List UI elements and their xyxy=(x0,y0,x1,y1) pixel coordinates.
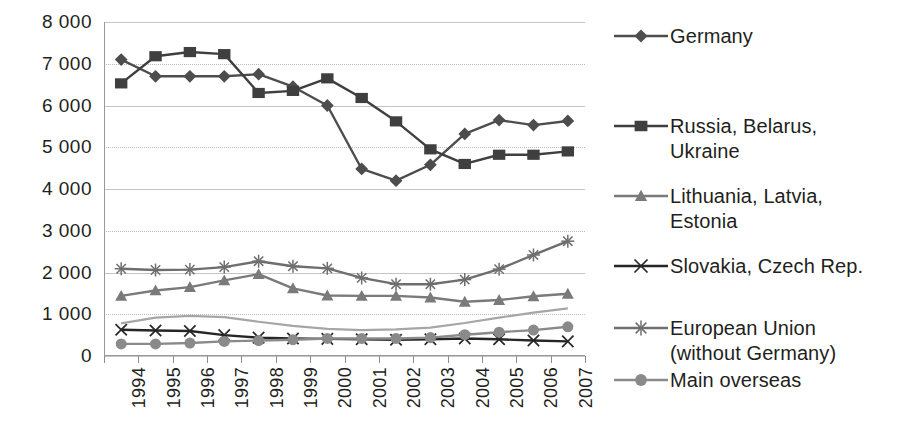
data-point-asterisk xyxy=(115,262,128,275)
data-point-asterisk xyxy=(527,248,540,261)
data-point-square xyxy=(390,116,402,126)
data-point-asterisk xyxy=(183,263,196,276)
data-point-square xyxy=(321,73,333,83)
series-russia-belarus-ukraine xyxy=(115,47,574,169)
y-tick-label: 6 000 xyxy=(42,95,92,117)
legend-marker-circle-icon xyxy=(612,369,670,391)
data-point-diamond xyxy=(561,115,574,128)
legend-label: Germany xyxy=(670,24,753,49)
x-tick xyxy=(585,356,586,363)
y-tick-label: 0 xyxy=(81,345,92,367)
data-point-circle xyxy=(253,335,264,346)
y-tick-label: 4 000 xyxy=(42,178,92,200)
legend-label: Russia, Belarus, Ukraine xyxy=(670,114,817,164)
legend-item-lithuania-latvia[interactable]: Lithuania, Latvia, Estonia xyxy=(612,184,823,234)
x-tick xyxy=(104,356,105,363)
y-axis: 01 0002 0003 0004 0005 0006 0007 0008 00… xyxy=(0,0,100,427)
legend-marker-square-icon xyxy=(612,115,670,137)
x-tick-label-2000: 2000 xyxy=(335,367,356,408)
x-tick-label-2005: 2005 xyxy=(507,367,528,408)
y-tick-label: 7 000 xyxy=(42,53,92,75)
legend-item-russia-belarus[interactable]: Russia, Belarus, Ukraine xyxy=(612,114,817,164)
legend-label: Main overseas xyxy=(670,368,801,393)
series-european-union-without-germany xyxy=(115,235,575,291)
legend-marker-cross-icon xyxy=(612,255,670,277)
data-point-square xyxy=(252,88,264,98)
data-point-triangle xyxy=(253,268,265,279)
x-tick-label-2006: 2006 xyxy=(541,367,562,408)
data-point-asterisk xyxy=(286,260,299,273)
data-point-diamond xyxy=(493,114,506,127)
y-tick-label: 3 000 xyxy=(42,220,92,242)
x-tick-label-2003: 2003 xyxy=(438,367,459,408)
data-point-diamond xyxy=(115,53,128,66)
data-point-circle xyxy=(635,374,647,386)
x-tick-label-2004: 2004 xyxy=(473,367,494,408)
x-tick xyxy=(413,356,414,363)
data-point-circle xyxy=(356,333,367,344)
data-point-square xyxy=(287,86,299,96)
legend-item-main-overseas[interactable]: Main overseas xyxy=(612,368,801,393)
legend-marker-diamond-icon xyxy=(612,25,670,47)
legend-label: Slovakia, Czech Rep. xyxy=(670,254,863,279)
chart-legend: GermanyRussia, Belarus, UkraineLithuania… xyxy=(612,16,912,386)
series-line xyxy=(121,308,568,330)
legend-item-slovakia-czech-rep[interactable]: Slovakia, Czech Rep. xyxy=(612,254,863,279)
y-tick-label: 2 000 xyxy=(42,262,92,284)
x-tick-label-1996: 1996 xyxy=(198,367,219,408)
data-point-asterisk xyxy=(634,321,649,336)
data-point-square xyxy=(184,47,196,57)
data-point-square xyxy=(218,49,230,59)
data-point-circle xyxy=(287,334,298,345)
x-tick xyxy=(516,356,517,363)
data-point-diamond xyxy=(634,29,647,42)
data-point-asterisk xyxy=(493,263,506,276)
x-tick-label-2007: 2007 xyxy=(576,367,597,408)
plot-area xyxy=(104,22,585,356)
data-point-diamond xyxy=(355,163,368,176)
legend-marker-triangle-icon xyxy=(612,185,670,207)
data-point-square xyxy=(355,93,367,103)
data-point-circle xyxy=(562,321,573,332)
series-canvas xyxy=(104,22,585,356)
series-line xyxy=(121,52,568,164)
legend-item-european-union[interactable]: European Union (without Germany) xyxy=(612,316,836,366)
x-tick xyxy=(276,356,277,363)
x-tick xyxy=(207,356,208,363)
y-tick-label: 8 000 xyxy=(42,11,92,33)
data-point-asterisk xyxy=(390,278,403,291)
x-tick-label-1994: 1994 xyxy=(129,367,150,408)
data-point-circle xyxy=(459,329,470,340)
data-point-asterisk xyxy=(355,271,368,284)
x-tick xyxy=(482,356,483,363)
x-tick xyxy=(345,356,346,363)
data-point-square xyxy=(635,121,648,131)
data-point-square xyxy=(459,159,471,169)
data-point-diamond xyxy=(390,174,403,187)
data-point-asterisk xyxy=(218,261,231,274)
legend-item-germany[interactable]: Germany xyxy=(612,24,753,49)
data-point-square xyxy=(493,150,505,160)
x-tick-label-1998: 1998 xyxy=(267,367,288,408)
y-tick-label: 5 000 xyxy=(42,136,92,158)
data-point-square xyxy=(115,78,127,88)
data-point-diamond xyxy=(218,70,231,83)
x-tick-label-1997: 1997 xyxy=(232,367,253,408)
data-point-circle xyxy=(425,332,436,343)
line-chart: 01 0002 0003 0004 0005 0006 0007 0008 00… xyxy=(0,0,914,427)
x-axis: 1994199519961997199819992000200120022003… xyxy=(104,356,585,427)
data-point-circle xyxy=(150,338,161,349)
x-tick xyxy=(551,356,552,363)
x-tick-label-1999: 1999 xyxy=(301,367,322,408)
y-tick-label: 1 000 xyxy=(42,303,92,325)
x-tick xyxy=(173,356,174,363)
data-point-circle xyxy=(322,333,333,344)
data-point-diamond xyxy=(252,68,265,81)
legend-label: European Union (without Germany) xyxy=(670,316,836,366)
data-point-circle xyxy=(219,336,230,347)
series-line xyxy=(121,241,568,284)
x-tick-label-1995: 1995 xyxy=(164,367,185,408)
legend-marker-asterisk-icon xyxy=(612,317,670,339)
data-point-circle xyxy=(528,325,539,336)
data-point-asterisk xyxy=(561,235,574,248)
